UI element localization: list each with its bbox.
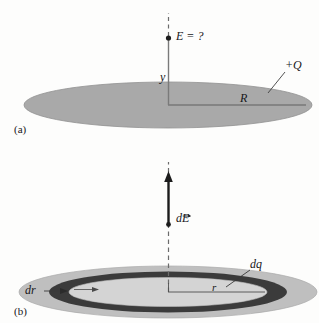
panel-a-group: [24, 13, 312, 128]
differential-field-label-e: E: [182, 212, 189, 224]
panel-tag-a: (a): [14, 124, 26, 135]
axial-distance-label-a: y: [160, 71, 165, 83]
panel-b-group: [19, 162, 317, 318]
differential-field-label-b: d E: [176, 212, 189, 224]
ring-width-label-b: dr: [25, 284, 36, 296]
ring-radius-label-b: r: [212, 282, 216, 293]
field-point-label-a: E = ?: [176, 30, 203, 42]
field-vector-head-b: [164, 171, 173, 182]
panel-tag-b: (b): [14, 306, 27, 317]
total-charge-label-a: +Q: [285, 59, 302, 71]
disk-radius-label-a: R: [240, 92, 247, 104]
figure-canvas: [0, 0, 319, 323]
field-point-dot-a: [166, 35, 171, 40]
differential-charge-label-b: dq: [250, 258, 262, 270]
vector-arrow-accent-icon: [182, 208, 190, 213]
field-vector-origin-dot-b: [166, 222, 171, 227]
physics-figure: E = ? y R +Q (a) d E dq dr r (b): [0, 0, 319, 323]
